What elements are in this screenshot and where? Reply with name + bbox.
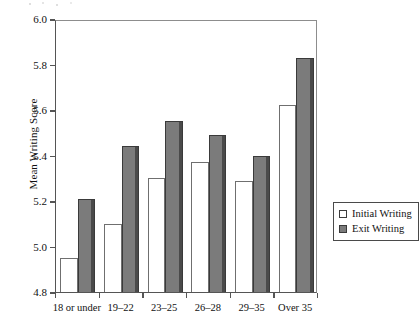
bar-initial-writing [60, 258, 78, 292]
x-axis-tick [273, 293, 274, 298]
x-axis-tick [230, 293, 231, 298]
open-square-swatch-icon [339, 210, 347, 218]
y-axis-tick-label: 6.0 [33, 12, 47, 27]
y-axis-tick-label: 4.8 [33, 285, 47, 300]
y-axis-tick-label: 5.6 [33, 103, 47, 118]
bar-initial-writing [148, 178, 166, 292]
bar-exit-writing [296, 58, 314, 292]
y-axis-tick-label: 5.0 [33, 240, 47, 255]
legend: Initial Writing Exit Writing [333, 202, 419, 241]
x-axis-tick [317, 293, 318, 298]
bar-initial-writing [191, 162, 209, 292]
bar-initial-writing [104, 224, 122, 292]
legend-label: Initial Writing [352, 208, 412, 219]
y-axis-tick-label: 5.8 [33, 58, 47, 73]
x-axis-tick [142, 293, 143, 298]
legend-label: Exit Writing [352, 223, 404, 234]
y-axis-tick-label: 5.2 [33, 194, 47, 209]
bar-exit-writing [209, 135, 227, 292]
scan-speckle-artifact [26, 1, 86, 8]
bar-exit-writing [122, 146, 140, 292]
plot-area [55, 20, 317, 293]
bar-initial-writing [235, 181, 253, 292]
y-axis-tick-label: 5.4 [33, 149, 47, 164]
bar-exit-writing [78, 199, 96, 292]
x-axis-tick [186, 293, 187, 298]
filled-square-swatch-icon [339, 225, 347, 233]
legend-item-initial-writing[interactable]: Initial Writing [339, 206, 412, 221]
bar-exit-writing [165, 121, 183, 292]
bar-initial-writing [279, 105, 297, 292]
bar-exit-writing [253, 156, 271, 293]
x-axis-category-label: Over 35 [250, 301, 340, 315]
x-axis-tick [55, 293, 56, 298]
x-axis-tick [99, 293, 100, 298]
legend-item-exit-writing[interactable]: Exit Writing [339, 221, 412, 236]
